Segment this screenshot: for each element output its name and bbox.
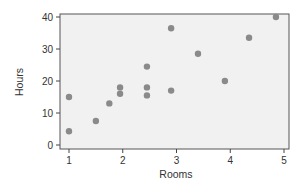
data-point <box>168 25 174 31</box>
y-axis-title: Hours <box>13 68 25 96</box>
y-tick-label: 30 <box>42 44 54 55</box>
data-point <box>273 14 279 20</box>
x-tick-label: 5 <box>281 155 287 166</box>
data-point <box>168 87 174 93</box>
plot-area <box>60 14 289 149</box>
x-tick-label: 1 <box>66 155 72 166</box>
data-point <box>66 94 72 100</box>
y-tick-label: 40 <box>42 12 54 23</box>
data-point <box>195 51 201 57</box>
data-point <box>66 128 72 134</box>
data-point <box>144 63 150 69</box>
x-tick-label: 3 <box>174 155 180 166</box>
data-point <box>144 84 150 90</box>
x-tick-label: 2 <box>120 155 126 166</box>
data-point <box>246 35 252 41</box>
data-point <box>222 78 228 84</box>
y-tick-label: 0 <box>47 140 53 151</box>
data-point <box>117 91 123 97</box>
data-point <box>144 92 150 98</box>
x-axis: 12345 <box>66 149 287 166</box>
scatter-chart: 12345 010203040 Rooms Hours <box>0 0 306 187</box>
data-point <box>106 100 112 106</box>
data-point <box>117 84 123 90</box>
y-axis: 010203040 <box>42 12 60 151</box>
data-point <box>93 118 99 124</box>
x-axis-title: Rooms <box>159 168 192 180</box>
y-tick-label: 20 <box>42 76 54 87</box>
x-tick-label: 4 <box>227 155 233 166</box>
y-tick-label: 10 <box>42 108 54 119</box>
